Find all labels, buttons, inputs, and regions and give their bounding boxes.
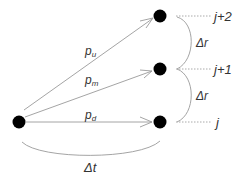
node-origin — [13, 116, 26, 129]
level-label-j: j — [214, 115, 220, 130]
node-down — [154, 116, 167, 129]
node-mid — [154, 63, 167, 76]
spacing-arc-upper — [177, 17, 191, 69]
time-arc — [22, 141, 160, 155]
level-label-j-plus-1: j+1 — [212, 62, 232, 77]
arrowhead-mid — [140, 70, 152, 78]
spacing-arc-lower — [177, 69, 191, 122]
label-pm: pm — [84, 73, 99, 88]
trinomial-tree-diagram: pu pm pd j+2 j+1 j Δr Δr Δt — [0, 0, 247, 181]
spacing-label-lower: Δr — [195, 89, 209, 103]
edge-up — [24, 19, 152, 110]
label-pu: pu — [84, 44, 97, 59]
spacing-label-upper: Δr — [195, 36, 209, 50]
time-step-label: Δt — [83, 160, 98, 175]
label-pd: pd — [84, 108, 97, 123]
level-lines — [176, 16, 212, 122]
node-up — [154, 10, 167, 23]
spacing-arcs — [22, 17, 191, 155]
level-label-j-plus-2: j+2 — [212, 9, 232, 24]
